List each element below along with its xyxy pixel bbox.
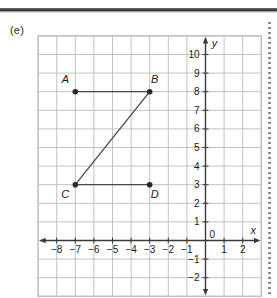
point-B[interactable]	[147, 89, 153, 95]
coordinate-plane-svg: −8−7−6−5−4−3−2−101210987654321−1−2xyABCD	[0, 0, 277, 298]
y-axis-tick-label: 10	[188, 49, 200, 60]
y-axis-tick-label: 9	[194, 68, 200, 79]
y-axis-tick-label: 8	[194, 86, 200, 97]
y-axis-tick-label: −2	[188, 272, 200, 283]
y-axis-tick-label: 3	[194, 179, 200, 190]
point-label-C: C	[61, 188, 69, 200]
x-axis-tick-label: −4	[125, 244, 137, 255]
x-axis-tick-label: −7	[70, 244, 82, 255]
x-axis-tick-label: −5	[107, 244, 119, 255]
y-axis-tick-label: −1	[188, 254, 200, 265]
x-axis-tick-label: 1	[221, 244, 227, 255]
point-label-D: D	[151, 188, 159, 200]
figure-root: (e) −8−7−6−5−4−3−2−101210987654321−1−2xy…	[0, 0, 277, 298]
point-C[interactable]	[73, 182, 79, 188]
x-axis-tick-label: −6	[88, 244, 100, 255]
x-axis-tick-label: −3	[144, 244, 156, 255]
point-A[interactable]	[73, 89, 79, 95]
x-axis-tick-label: −2	[163, 244, 175, 255]
x-axis-tick-label-origin: 0	[210, 229, 216, 240]
point-D[interactable]	[147, 182, 153, 188]
y-axis-tick-label: 6	[194, 123, 200, 134]
y-axis-tick-label: 1	[194, 216, 200, 227]
y-axis-tick-label: 5	[194, 142, 200, 153]
point-label-A: A	[61, 73, 69, 85]
page-edge-dotted-rule	[268, 22, 271, 294]
y-axis-tick-label: 4	[194, 161, 200, 172]
x-axis-label: x	[250, 224, 257, 236]
y-axis-tick-label: 2	[194, 198, 200, 209]
x-axis-tick-label: 2	[240, 244, 246, 255]
coordinate-plane: −8−7−6−5−4−3−2−101210987654321−1−2xyABCD	[0, 0, 277, 298]
point-label-B: B	[151, 73, 158, 85]
y-axis-tick-label: 7	[194, 105, 200, 116]
x-axis-tick-label: −8	[51, 244, 63, 255]
